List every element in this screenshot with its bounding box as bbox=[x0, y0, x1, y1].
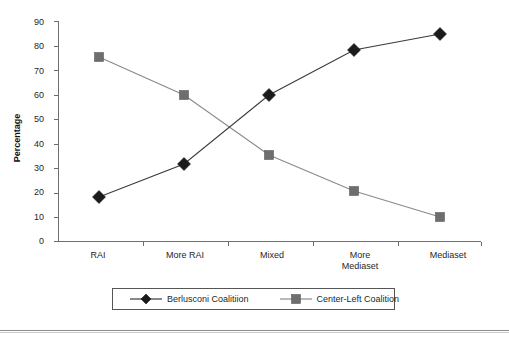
data-point-center-left-mediaset bbox=[436, 213, 445, 222]
data-point-center-left-mixed bbox=[265, 151, 274, 160]
data-point-center-left-more-rai bbox=[180, 91, 189, 100]
x-axis-ticks bbox=[144, 242, 482, 247]
data-point-center-left-more-mediaset bbox=[350, 187, 359, 196]
data-point-berlusconi-mediaset bbox=[434, 28, 447, 41]
legend-entry-berlusconi: Berlusconi Coalitiion bbox=[129, 293, 249, 305]
chart-legend: Berlusconi Coalitiion Center-Left Coalit… bbox=[112, 288, 395, 310]
diamond-marker-icon bbox=[129, 293, 163, 305]
data-point-berlusconi-more-rai bbox=[178, 158, 191, 171]
data-point-center-left-rai bbox=[95, 53, 104, 62]
legend-entry-center-left: Center-Left Coalition bbox=[279, 293, 400, 305]
series-markers-center-left bbox=[95, 53, 445, 222]
series-line-center-left bbox=[99, 57, 440, 217]
y-axis-ticks bbox=[54, 22, 59, 242]
legend-label-berlusconi: Berlusconi Coalitiion bbox=[167, 294, 249, 304]
footer-divider bbox=[0, 330, 509, 331]
data-point-berlusconi-more-mediaset bbox=[348, 44, 361, 57]
chart-figure: Percentage 90 80 70 60 50 40 30 20 10 0 … bbox=[0, 0, 509, 338]
legend-label-center-left: Center-Left Coalition bbox=[317, 294, 400, 304]
series-line-berlusconi bbox=[99, 34, 440, 197]
footer-divider-shadow bbox=[0, 332, 509, 333]
data-point-berlusconi-rai bbox=[93, 191, 106, 204]
square-marker-icon bbox=[279, 293, 313, 305]
series-markers-berlusconi bbox=[93, 28, 447, 204]
data-point-berlusconi-mixed bbox=[263, 89, 276, 102]
